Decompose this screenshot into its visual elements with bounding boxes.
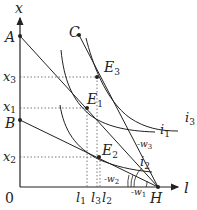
point-E3-label: E3 <box>103 59 120 77</box>
curve-i2-label: i2 <box>140 154 150 171</box>
point-E2-label: E2 <box>101 142 118 160</box>
labor-leisure-diagram: x l 0 A B C H E3 E1 E2 x3 x1 x2 l1 l3 l2… <box>0 0 197 210</box>
origin-label: 0 <box>5 190 14 206</box>
curve-i3-label: i3 <box>185 110 195 127</box>
budget-lines <box>20 35 158 187</box>
y-tick-x2: x2 <box>3 149 16 165</box>
wage-w3-label: -w3 <box>137 139 152 151</box>
point-H-label: H <box>149 190 163 206</box>
curve-i3 <box>86 38 178 131</box>
wage-w1-label: -w1 <box>131 187 146 199</box>
wage-w2-label: -w2 <box>104 174 119 186</box>
x-tick-l1: l1 <box>76 190 86 206</box>
y-tick-x1: x1 <box>3 99 16 115</box>
point-B-label: B <box>4 115 15 131</box>
point-A-label: A <box>3 29 15 45</box>
budget-line-AH <box>20 36 158 187</box>
point-C-label: C <box>69 24 80 40</box>
y-axis-label: x <box>15 0 23 16</box>
y-tick-x3: x3 <box>3 69 16 85</box>
x-tick-l2: l2 <box>102 190 112 206</box>
point-E1-label: E1 <box>86 91 103 109</box>
x-axis-label: l <box>184 179 189 197</box>
x-tick-l3: l3 <box>91 190 101 206</box>
indifference-curves <box>60 38 178 172</box>
curve-i1-label: i1 <box>160 122 170 139</box>
